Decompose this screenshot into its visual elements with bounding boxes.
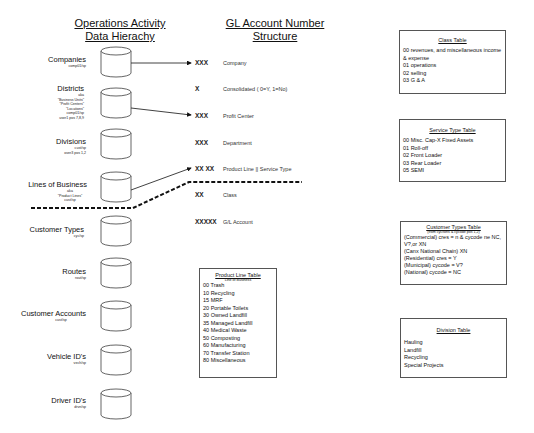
gl-desc: Profit Center <box>223 113 254 119</box>
entity-label: Vehicle ID's <box>0 352 86 361</box>
table-item: 03 G & A <box>403 77 502 85</box>
cylinder-vehicle-ids <box>101 345 131 375</box>
hierarchy-title-line2: Data Hierachy <box>60 30 180 43</box>
gl-code: XXX <box>195 59 208 66</box>
table-title: Service Type Table <box>403 127 502 133</box>
table-item: 15 MRF <box>203 297 273 305</box>
table-item: 20 Portable Toilets <box>203 305 273 313</box>
customer-types-table: Customer Types Table (from cyc/tons & cy… <box>400 221 507 285</box>
gl-title-line2: Structure <box>220 30 330 43</box>
table-item: Special Projects <box>404 362 503 370</box>
hierarchy-title: Operations Activity Data Hierachy <box>60 17 180 43</box>
entity-sub: drvn/sp <box>0 405 86 410</box>
entity-label: Customer Accounts <box>0 309 86 318</box>
table-item: 03 Rear Loader <box>403 160 502 168</box>
entity-label: Routes <box>0 267 86 276</box>
table-item: 00 Trash <box>203 282 273 290</box>
gl-desc: G/L Account <box>223 219 253 225</box>
division-table: Division Table Hauling Landfill Recyclin… <box>400 318 507 378</box>
entity-label: Customer Types <box>0 225 84 234</box>
gl-desc: Company <box>223 60 247 66</box>
entity-routes: Routes rout/sp <box>0 267 86 281</box>
entity-label: Districts <box>0 84 84 93</box>
entity-sub: over3 pos 1,2 <box>0 151 86 156</box>
entity-sub: cyc/sp <box>0 234 84 239</box>
gl-desc: Department <box>223 140 252 146</box>
entity-sub: cust/sp <box>40 198 100 203</box>
entity-sub: rout/sp <box>0 276 86 281</box>
gl-code: X <box>195 85 199 92</box>
entity-label: Divisions <box>0 137 86 146</box>
entity-label: Driver ID's <box>0 396 86 405</box>
table-item: (Residential) cres = Y <box>404 255 503 262</box>
cylinder-routes <box>101 258 131 288</box>
table-item: (Commercial) cres = n & cycode ne NC, V?… <box>404 234 503 248</box>
table-item: 02 selling <box>403 70 502 78</box>
gl-code: XXXXX <box>195 218 217 225</box>
table-item: 01 Roll-off <box>403 145 502 153</box>
gl-code: XXX <box>195 139 208 146</box>
table-item: 02 Front Loader <box>403 152 502 160</box>
cylinder-customer-types <box>101 216 131 246</box>
entity-customer-accounts: Customer Accounts cust/sp <box>0 309 86 323</box>
table-item: Recycling <box>404 354 503 362</box>
table-item: 50 Composting <box>203 335 273 343</box>
table-item: 00 revenues, and miscellaneous income & … <box>403 47 502 62</box>
gl-desc: Class <box>223 192 237 198</box>
entity-label: Lines of Business <box>0 180 87 189</box>
entity-companies: Companies comp01/sp <box>0 55 86 69</box>
entity-lines-of-business: Lines of Business aka "Product Lines" cu… <box>0 180 87 203</box>
entity-vehicle-ids: Vehicle ID's vech/sp <box>0 352 86 366</box>
table-item: 10 Recycling <box>203 290 273 298</box>
cylinder-districts <box>101 88 131 118</box>
table-item: 30 Owned Landfill <box>203 312 273 320</box>
cylinder-divisions <box>101 129 131 159</box>
entity-driver-ids: Driver ID's drvn/sp <box>0 396 86 410</box>
hierarchy-title-line1: Operations Activity <box>60 17 180 30</box>
table-item: (National) cycode = NC <box>404 269 503 276</box>
gl-desc: Consolidated ( 0=Y, 1=No) <box>223 86 287 92</box>
table-item: 60 Manufacturing <box>203 342 273 350</box>
table-item: 40 Medical Waste <box>203 327 273 335</box>
table-item: Hauling <box>404 339 503 347</box>
table-title: Division Table <box>404 327 503 333</box>
entity-customer-types: Customer Types cyc/sp <box>0 225 84 239</box>
entity-sub: cust/sp <box>46 318 76 323</box>
cylinder-driver-ids <box>101 389 131 419</box>
cylinder-companies <box>101 47 131 77</box>
class-table: Class Table 00 revenues, and miscellaneo… <box>399 30 506 94</box>
table-item: 70 Transfer Station <box>203 350 273 358</box>
gl-code: XX XX <box>195 165 214 172</box>
cylinder-lines-of-business <box>101 172 131 202</box>
gl-code: XXX <box>195 112 208 119</box>
product-line-table: Product Line Table "Line of Business" 00… <box>199 268 277 378</box>
cylinder-customer-accounts <box>101 301 131 331</box>
entity-sub: user1 pos 7,8,9 <box>0 116 84 121</box>
entity-divisions: Divisions cust/sp over3 pos 1,2 <box>0 137 86 155</box>
entity-sub: comp01/sp <box>0 64 86 69</box>
table-item: 01 operations <box>403 62 502 70</box>
table-item: Landfill <box>404 347 503 355</box>
gl-structure-title: GL Account Number Structure <box>220 17 330 43</box>
table-item: (Canx National Chain) XN <box>404 248 503 255</box>
table-item: 05 SEMI <box>403 167 502 175</box>
gl-desc: Product Line || Service Type <box>223 166 292 172</box>
table-item: (Municipal) cycode = V? <box>404 262 503 269</box>
table-title: Class Table <box>403 37 502 43</box>
entity-districts: Districts aka "Business Units" "Profit C… <box>0 84 84 120</box>
table-item: 00 Misc. Cap-X Fixed Assets <box>403 137 502 145</box>
table-item: 80 Miscellaneous <box>203 357 273 365</box>
entity-label: Companies <box>0 55 86 64</box>
service-type-table: Service Type Table 00 Misc. Cap-X Fixed … <box>399 119 506 182</box>
entity-sub: vech/sp <box>0 361 86 366</box>
gl-title-line1: GL Account Number <box>220 17 330 30</box>
gl-code: XX <box>195 191 204 198</box>
table-item: 35 Managed Landfill <box>203 320 273 328</box>
